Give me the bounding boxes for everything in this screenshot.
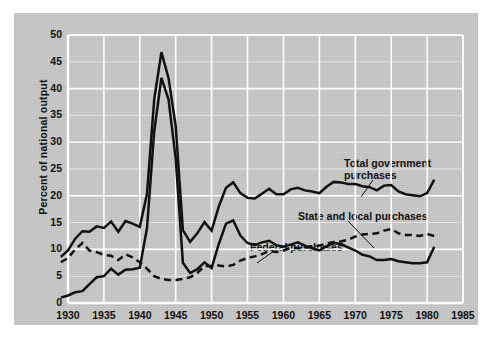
figure-root: Percent of national output 0510152025303… xyxy=(0,0,492,339)
plot-area xyxy=(14,13,478,325)
chart-panel: Percent of national output 0510152025303… xyxy=(14,13,478,325)
